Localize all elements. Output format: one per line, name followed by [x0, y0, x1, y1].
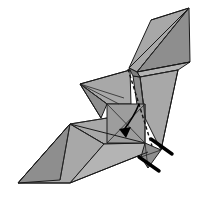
facet-head-spike [80, 70, 131, 104]
origami-diagram-root [0, 0, 201, 202]
facet-right-wing-trailing [140, 70, 178, 150]
origami-bat-illustration [0, 0, 201, 202]
